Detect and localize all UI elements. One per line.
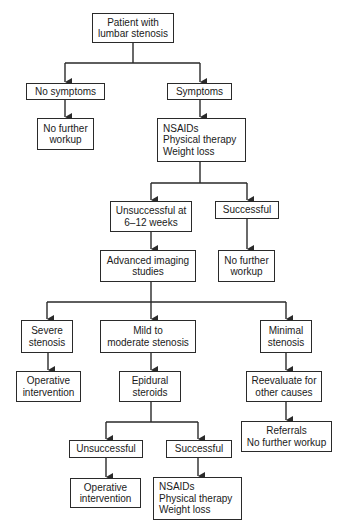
node-no-symptoms: No symptoms xyxy=(26,83,105,100)
node-text: Patient with xyxy=(107,17,159,29)
node-text: intervention xyxy=(23,387,75,399)
node-epidural-steroids: Epidural steroids xyxy=(119,371,181,402)
node-reevaluate-other-causes: Reevaluate for other causes xyxy=(246,371,322,402)
node-text: Advanced imaging xyxy=(107,255,189,267)
node-text: Operative xyxy=(84,482,127,494)
node-text: Physical therapy xyxy=(163,134,236,146)
node-advanced-imaging: Advanced imaging studies xyxy=(100,250,196,282)
node-no-further-workup-2: No further workup xyxy=(218,250,275,282)
node-text: Successful xyxy=(223,204,271,216)
node-text: Successful xyxy=(175,443,223,455)
node-operative-intervention-2: Operative intervention xyxy=(70,478,141,508)
node-text: Weight loss xyxy=(163,146,215,158)
node-text: No further workup xyxy=(247,437,326,449)
node-successful-1: Successful xyxy=(215,201,279,219)
node-text: Operative xyxy=(27,375,70,387)
node-patient-with-lumbar-stenosis: Patient with lumbar stenosis xyxy=(92,13,174,43)
node-symptoms: Symptoms xyxy=(167,83,232,100)
node-text: Unsuccessful at xyxy=(116,205,187,217)
node-text: No symptoms xyxy=(35,86,96,98)
node-text: Unsuccessful xyxy=(76,443,135,455)
node-text: 6–12 weeks xyxy=(124,217,177,229)
node-severe-stenosis: Severe stenosis xyxy=(21,320,73,353)
node-text: other causes xyxy=(255,387,312,399)
node-conservative-therapy-1: NSAIDs Physical therapy Weight loss xyxy=(157,118,246,162)
node-text: Mild to xyxy=(133,325,162,337)
node-text: Severe xyxy=(31,325,63,337)
node-referrals: Referrals No further workup xyxy=(241,421,332,452)
node-no-further-workup-1: No further workup xyxy=(37,118,94,150)
node-conservative-therapy-2: NSAIDs Physical therapy Weight loss xyxy=(153,477,242,520)
node-minimal-stenosis: Minimal stenosis xyxy=(260,320,312,353)
node-unsuccessful-6-12-weeks: Unsuccessful at 6–12 weeks xyxy=(110,201,192,232)
node-text: Symptoms xyxy=(176,86,223,98)
node-text: stenosis xyxy=(29,337,66,349)
node-operative-intervention-1: Operative intervention xyxy=(16,371,81,402)
node-text: lumbar stenosis xyxy=(98,28,168,40)
node-text: No further xyxy=(224,255,268,267)
node-text: Reevaluate for xyxy=(251,375,316,387)
node-text: moderate stenosis xyxy=(107,337,189,349)
node-text: workup xyxy=(49,134,81,146)
node-text: steroids xyxy=(132,387,167,399)
node-text: No further xyxy=(43,123,87,135)
node-mild-to-moderate-stenosis: Mild to moderate stenosis xyxy=(100,320,196,353)
node-text: Epidural xyxy=(132,375,169,387)
node-text: studies xyxy=(132,266,164,278)
node-text: stenosis xyxy=(268,337,305,349)
node-text: Minimal xyxy=(269,325,303,337)
node-text: Referrals xyxy=(266,425,307,437)
node-text: intervention xyxy=(80,493,132,505)
node-text: workup xyxy=(230,266,262,278)
node-text: NSAIDs xyxy=(159,481,195,493)
node-successful-2: Successful xyxy=(166,440,232,458)
node-text: Physical therapy xyxy=(159,493,232,505)
node-text: NSAIDs xyxy=(163,123,199,135)
node-unsuccessful-2: Unsuccessful xyxy=(69,440,143,458)
node-text: Weight loss xyxy=(159,504,211,516)
